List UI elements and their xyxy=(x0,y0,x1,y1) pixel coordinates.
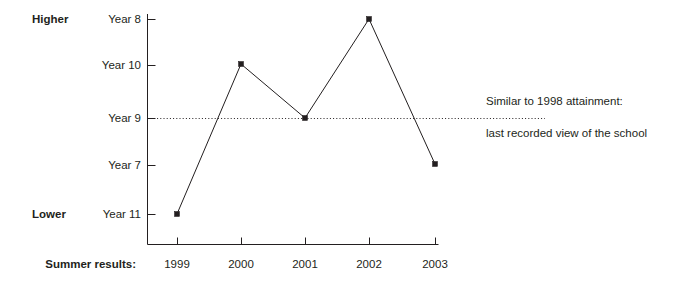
data-point-2002[interactable] xyxy=(367,17,372,22)
x-tick-label-2003: 2003 xyxy=(422,258,448,270)
x-tick-label-1999: 1999 xyxy=(164,258,190,270)
data-point-1999[interactable] xyxy=(175,212,180,217)
x-tick-label-2000: 2000 xyxy=(228,258,254,270)
y-tick-label-year-9: Year 9 xyxy=(108,112,141,124)
y-tick-label-year-7: Year 7 xyxy=(108,159,141,171)
x-axis-title: Summer results: xyxy=(45,258,136,270)
x-tick-label-2002: 2002 xyxy=(356,258,382,270)
line-chart-figure: Higher Lower Year 8 Year 10 Year 9 Year … xyxy=(0,0,694,288)
data-point-2003[interactable] xyxy=(433,162,438,167)
x-tick-label-2001: 2001 xyxy=(292,258,318,270)
y-tick-label-year-8: Year 8 xyxy=(108,13,141,25)
data-point-2001[interactable] xyxy=(303,116,308,121)
y-axis-higher-label: Higher xyxy=(32,13,69,25)
data-point-2000[interactable] xyxy=(239,62,244,67)
annotation-line-1: Similar to 1998 attainment: xyxy=(486,95,623,107)
chart-canvas: Higher Lower Year 8 Year 10 Year 9 Year … xyxy=(0,0,694,288)
y-tick-label-year-10: Year 10 xyxy=(102,59,141,71)
y-tick-label-year-11: Year 11 xyxy=(103,208,141,220)
annotation-line-2: last recorded view of the school xyxy=(486,127,647,139)
y-axis-lower-label: Lower xyxy=(32,208,66,220)
